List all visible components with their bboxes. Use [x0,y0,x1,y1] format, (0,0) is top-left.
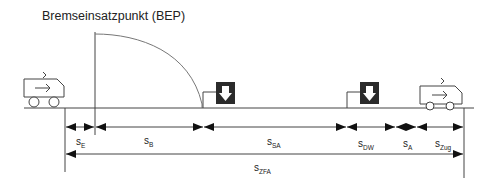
train-icon-left [24,72,64,107]
label-sA: sA [403,138,412,151]
label-sB: sB [144,135,153,148]
train-icon-right [420,78,462,110]
label-sSA: sSA [267,136,281,149]
label-sDW: sDW [358,138,374,151]
label-sZug: sZug [435,138,451,151]
label-sE: sE [76,136,85,149]
label-sZFA: sZFA [254,162,271,175]
signal-2 [347,82,379,108]
braking-distance-diagram [0,0,492,186]
braking-curve [95,34,202,108]
signal-1 [203,82,235,108]
